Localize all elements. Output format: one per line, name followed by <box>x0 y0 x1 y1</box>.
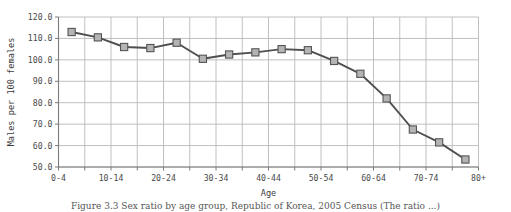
x-axis-title: Age <box>261 188 277 198</box>
data-point-15-19 <box>147 44 154 51</box>
data-point-35-39 <box>252 49 259 56</box>
x-axis-tick-labels: 0-410-1420-2430-3440-4450-5460-6470-7480… <box>51 173 486 183</box>
data-point-5-9 <box>94 34 101 41</box>
data-point-65-69 <box>409 126 416 133</box>
x-tick-label-50-54: 50-54 <box>309 173 334 183</box>
data-point-70-74 <box>436 139 443 146</box>
figure-caption: Figure 3.3 Sex ratio by age group, Repub… <box>0 201 511 212</box>
sex-ratio-line-chart: 120.0110.0100.090.080.070.060.050.0 0-41… <box>0 0 511 212</box>
y-tick-label-110: 110.0 <box>28 33 53 43</box>
data-point-55-59 <box>357 70 364 77</box>
x-tick-label-0-4: 0-4 <box>51 173 66 183</box>
data-point-40-44 <box>278 46 285 53</box>
y-axis-title: Males per 100 females <box>6 38 16 147</box>
data-point-75-79 <box>462 156 469 163</box>
y-tick-label-70: 70.0 <box>33 119 53 129</box>
figure-container: 120.0110.0100.090.080.070.060.050.0 0-41… <box>0 0 511 212</box>
y-tick-label-60: 60.0 <box>33 141 53 151</box>
x-tick-label-40-44: 40-44 <box>256 173 281 183</box>
y-tick-label-90: 90.0 <box>33 76 53 86</box>
data-point-10-14 <box>121 43 128 50</box>
y-tick-label-80: 80.0 <box>33 98 53 108</box>
y-tick-label-120: 120.0 <box>28 12 53 22</box>
data-point-45-49 <box>304 47 311 54</box>
x-tick-label-60-64: 60-64 <box>361 173 386 183</box>
data-point-0-4 <box>68 28 75 35</box>
x-tick-label-10-14: 10-14 <box>99 173 124 183</box>
data-point-30-34 <box>226 51 233 58</box>
x-tick-label-70-74: 70-74 <box>414 173 439 183</box>
x-tick-label-20-24: 20-24 <box>151 173 176 183</box>
y-tick-label-100: 100.0 <box>28 55 53 65</box>
y-tick-label-50: 50.0 <box>33 162 53 172</box>
data-point-20-24 <box>173 39 180 46</box>
data-point-25-29 <box>199 55 206 62</box>
data-point-50-54 <box>331 57 338 64</box>
x-tick-label-30-34: 30-34 <box>204 173 229 183</box>
data-point-60-64 <box>383 95 390 102</box>
x-tick-label-80+: 80+ <box>471 173 486 183</box>
